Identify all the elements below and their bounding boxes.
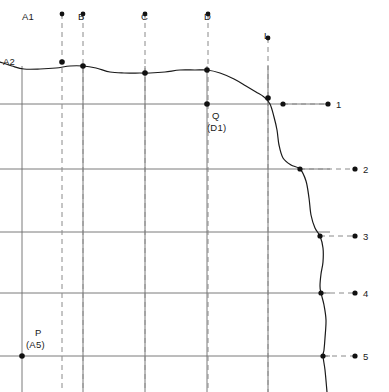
label-q-alias: (D1) bbox=[207, 122, 226, 133]
curve-dot-C-point[interactable] bbox=[142, 70, 148, 76]
curve-dot-B-point[interactable] bbox=[80, 63, 86, 69]
marker-label-5: 5 bbox=[363, 351, 368, 362]
diagram-canvas: A1BCDLA2Q(D1)P(A5)12345 bbox=[0, 0, 389, 392]
well-head-dot-a1[interactable] bbox=[60, 12, 65, 17]
marker-dot-4[interactable] bbox=[352, 290, 357, 295]
point-p[interactable] bbox=[19, 353, 25, 359]
marker-dot-3[interactable] bbox=[352, 233, 357, 238]
curve-dot-A2-point[interactable] bbox=[59, 59, 65, 65]
well-label-l: L bbox=[264, 30, 269, 41]
marker-anchor-3[interactable] bbox=[317, 233, 322, 238]
marker-dot-2[interactable] bbox=[352, 166, 357, 171]
marker-anchor-2[interactable] bbox=[297, 166, 302, 171]
marker-label-2: 2 bbox=[363, 164, 368, 175]
well-label-c: C bbox=[141, 11, 148, 22]
label-a2: A2 bbox=[3, 56, 15, 67]
correlation-plot bbox=[0, 0, 389, 392]
curve-dot-D-point[interactable] bbox=[204, 67, 210, 73]
point-q[interactable] bbox=[204, 101, 210, 107]
label-p-alias: (A5) bbox=[26, 339, 45, 350]
horizon-curve bbox=[0, 62, 327, 392]
marker-dot-1[interactable] bbox=[325, 101, 330, 106]
marker-label-3: 3 bbox=[363, 231, 368, 242]
well-trace-lines bbox=[62, 14, 268, 392]
label-q: Q bbox=[212, 110, 220, 121]
marker-anchor-5[interactable] bbox=[320, 353, 325, 358]
well-label-d: D bbox=[204, 11, 211, 22]
well-label-a1: A1 bbox=[22, 11, 34, 22]
label-p: P bbox=[35, 327, 42, 338]
marker-label-4: 4 bbox=[363, 288, 368, 299]
marker-dot-5[interactable] bbox=[352, 353, 357, 358]
marker-leader-lines bbox=[283, 104, 355, 356]
marker-label-1: 1 bbox=[336, 99, 341, 110]
grid-lines bbox=[0, 66, 330, 392]
curve-dot-L-point[interactable] bbox=[265, 95, 271, 101]
marker-anchor-1[interactable] bbox=[280, 101, 285, 106]
well-label-b: B bbox=[78, 11, 85, 22]
marker-anchor-4[interactable] bbox=[318, 290, 323, 295]
horizon-curve-path bbox=[0, 62, 327, 392]
